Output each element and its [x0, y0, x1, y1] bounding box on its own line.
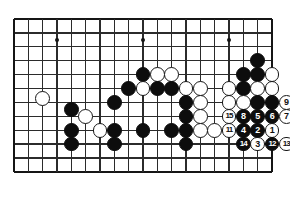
- stone-white[interactable]: [222, 95, 237, 110]
- stone-white[interactable]: [222, 81, 237, 96]
- stone-black[interactable]: [250, 95, 265, 110]
- move-number-label: 8: [241, 112, 246, 121]
- stone-white[interactable]: [35, 91, 50, 106]
- stone-white[interactable]: [193, 123, 208, 138]
- move-stone-6[interactable]: 6: [265, 109, 280, 124]
- stone-white[interactable]: [179, 81, 194, 96]
- stone-black[interactable]: [265, 95, 280, 110]
- stone-black[interactable]: [250, 53, 265, 68]
- move-number-label: 11: [226, 126, 232, 134]
- stone-white[interactable]: [236, 95, 251, 110]
- stone-white[interactable]: [193, 109, 208, 124]
- grid-line-vertical: [56, 19, 57, 172]
- stone-white[interactable]: [193, 95, 208, 110]
- grid-line-vertical: [85, 19, 86, 172]
- go-board[interactable]: 9158567114211431213: [0, 0, 290, 197]
- move-number-label: 2: [255, 126, 260, 135]
- move-number-label: 9: [284, 98, 289, 107]
- stone-black[interactable]: [179, 123, 194, 138]
- move-stone-7[interactable]: 7: [279, 109, 290, 124]
- move-stone-2[interactable]: 2: [250, 123, 265, 138]
- go-diagram-root: 9158567114211431213: [0, 0, 290, 197]
- stone-black[interactable]: [179, 95, 194, 110]
- move-stone-11[interactable]: 11: [222, 123, 237, 138]
- move-stone-4[interactable]: 4: [236, 123, 251, 138]
- move-stone-3[interactable]: 3: [250, 137, 265, 152]
- move-number-label: 13: [283, 140, 290, 148]
- stone-black[interactable]: [64, 102, 79, 117]
- stone-black[interactable]: [179, 109, 194, 124]
- move-stone-8[interactable]: 8: [236, 109, 251, 124]
- stone-black[interactable]: [164, 123, 179, 138]
- stone-black[interactable]: [150, 81, 165, 96]
- move-stone-13[interactable]: 13: [279, 137, 290, 152]
- move-number-label: 14: [240, 140, 247, 148]
- stone-white[interactable]: [265, 81, 280, 96]
- move-stone-1[interactable]: 1: [265, 123, 280, 138]
- move-stone-15[interactable]: 15: [222, 109, 237, 124]
- stone-black[interactable]: [136, 123, 151, 138]
- move-number-label: 4: [241, 126, 246, 135]
- stone-black[interactable]: [236, 81, 251, 96]
- star-point: [227, 38, 231, 42]
- stone-black[interactable]: [136, 67, 151, 82]
- stone-white[interactable]: [164, 67, 179, 82]
- move-number-label: 12: [268, 140, 275, 148]
- stone-white[interactable]: [150, 67, 165, 82]
- move-number-label: 1: [270, 126, 275, 135]
- grid-line-vertical: [214, 19, 215, 172]
- stone-black[interactable]: [64, 137, 79, 152]
- stone-black[interactable]: [107, 95, 122, 110]
- star-point: [55, 38, 59, 42]
- move-stone-12[interactable]: 12: [265, 137, 280, 152]
- stone-white[interactable]: [78, 109, 93, 124]
- grid-line-vertical: [13, 19, 15, 172]
- star-point: [141, 38, 145, 42]
- move-stone-9[interactable]: 9: [279, 95, 290, 110]
- stone-white[interactable]: [207, 123, 222, 138]
- stone-black[interactable]: [64, 123, 79, 138]
- move-number-label: 3: [255, 140, 260, 149]
- stone-black[interactable]: [107, 123, 122, 138]
- stone-white[interactable]: [93, 123, 108, 138]
- grid-line-vertical: [28, 19, 29, 172]
- stone-white[interactable]: [250, 81, 265, 96]
- move-number-label: 7: [284, 112, 289, 121]
- stone-black[interactable]: [236, 67, 251, 82]
- grid-line-vertical: [99, 19, 100, 172]
- move-number-label: 15: [225, 113, 232, 121]
- move-stone-5[interactable]: 5: [250, 109, 265, 124]
- stone-black[interactable]: [250, 67, 265, 82]
- stone-black[interactable]: [164, 81, 179, 96]
- stone-white[interactable]: [136, 81, 151, 96]
- stone-black[interactable]: [179, 137, 194, 152]
- stone-black[interactable]: [121, 81, 136, 96]
- move-stone-14[interactable]: 14: [236, 137, 251, 152]
- move-number-label: 5: [255, 112, 260, 121]
- move-number-label: 6: [270, 112, 275, 121]
- stone-white[interactable]: [193, 81, 208, 96]
- stone-black[interactable]: [107, 137, 122, 152]
- stone-white[interactable]: [265, 67, 280, 82]
